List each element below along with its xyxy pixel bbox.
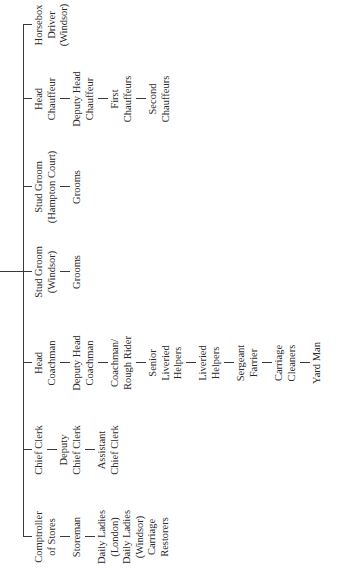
node-chief-clerk: Chief Clerk [33,425,46,474]
connector [47,449,57,450]
connector [60,186,70,187]
node-assistant-chief-clerk: Assistant Chief Clerk [96,425,121,474]
branch-drop-stores [23,536,32,537]
node-deputy-head-coachman: Deputy Head Coachman [71,335,96,391]
node-head-coachman: Head Coachman [33,341,58,386]
node-coachman-rough-rider: Coachman/ Rough Rider [109,336,134,390]
connector [98,98,108,99]
node-horsebox-driver-windsor: Horsebox Driver (Windsor) [33,4,71,47]
node-stud-groom-hampton-court: Stud Groom (Hampton Court) [33,151,58,224]
node-senior-liveried-helpers: Senior Liveried Helpers [147,345,185,381]
connector [98,362,108,363]
connector [60,271,70,272]
connector [136,98,146,99]
node-carriage-cleaners: Carriage Cleaners [273,345,298,382]
node-daily-ladies-carriage-restorers: Daily Ladies (London) Daily Ladies (Wind… [96,510,171,564]
node-head-chauffeur: Head Chauffeur [33,78,58,120]
connector [60,98,70,99]
org-chart: Comptroller of Stores Storeman Daily Lad… [0,0,338,568]
connector [300,362,310,363]
connector [262,362,272,363]
node-grooms-hampton-court: Grooms [71,170,84,204]
branch-drop-chauffeurs [23,98,32,99]
connector [186,362,196,363]
branch-drop-horsebox [23,24,32,25]
parent-connector-line [0,271,24,272]
node-second-chauffeurs: Second Chauffeurs [147,76,172,122]
node-first-chauffeurs: First Chauffeurs [109,76,134,122]
top-spine-line [23,24,24,537]
node-sergeant-farrier: Sergeant Farrier [235,345,260,382]
branch-drop-coachmen [23,362,32,363]
connector [60,536,70,537]
node-storeman: Storeman [71,517,84,557]
node-comptroller-of-stores: Comptroller of Stores [33,511,58,562]
connector [85,449,95,450]
node-liveried-helpers: Liveried Helpers [197,345,222,381]
branch-drop-clerks [23,449,32,450]
node-deputy-head-chauffeur: Deputy Head Chauffeur [71,71,96,127]
branch-drop-stud-windsor [23,271,32,272]
node-yard-man: Yard Man [311,342,324,384]
connector [136,362,146,363]
connector [85,536,95,537]
branch-drop-stud-hampton [23,186,32,187]
node-grooms-windsor: Grooms [71,255,84,289]
connector [60,362,70,363]
connector [224,362,234,363]
node-stud-groom-windsor: Stud Groom (Windsor) [33,246,58,298]
node-deputy-chief-clerk: Deputy Chief Clerk [58,425,83,474]
